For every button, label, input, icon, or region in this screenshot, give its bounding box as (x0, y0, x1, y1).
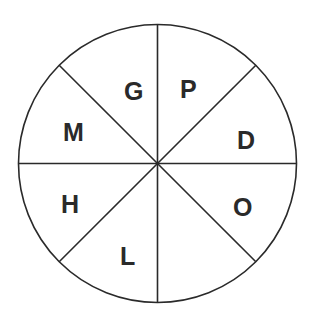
sector-label-h: H (61, 190, 79, 218)
sector-label-p: P (180, 75, 197, 103)
sector-label-d: D (237, 126, 255, 154)
divided-circle-diagram: G P D O L H M (0, 0, 314, 322)
sector-label-l: L (120, 242, 135, 270)
sector-label-g: G (124, 77, 143, 105)
center-point (156, 162, 159, 165)
sector-label-o: O (233, 193, 252, 221)
sector-label-m: M (63, 118, 84, 146)
